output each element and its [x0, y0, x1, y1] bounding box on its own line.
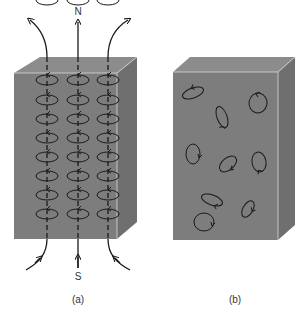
caption-b: (b) [225, 294, 245, 305]
caption-a: (a) [68, 294, 88, 305]
block-b [173, 57, 295, 240]
block-a [14, 57, 137, 239]
aligned-current-loops [36, 0, 119, 5]
magnetic-domains-diagram [0, 0, 303, 312]
south-label: S [73, 271, 83, 282]
north-label: N [73, 6, 83, 17]
